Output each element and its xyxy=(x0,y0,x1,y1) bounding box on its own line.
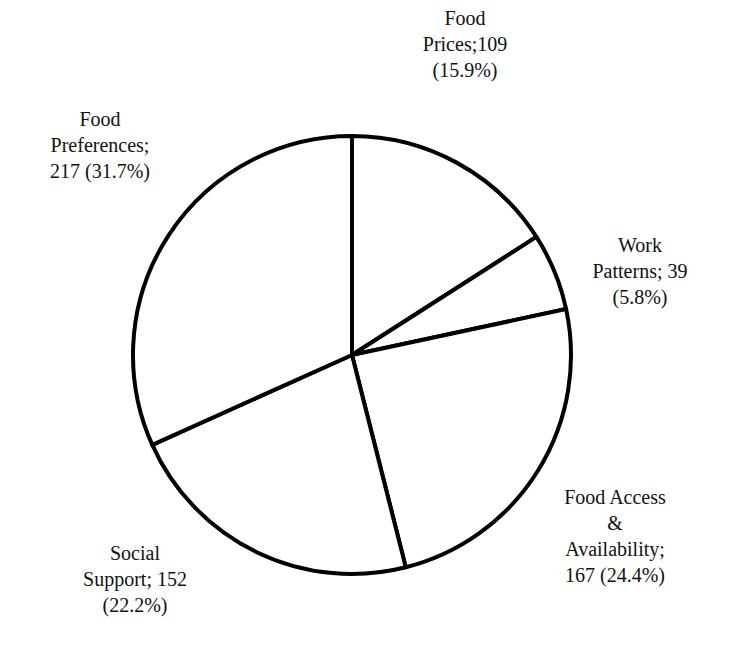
pie-slices xyxy=(133,136,571,574)
label-food-prices: Food Prices;109 (15.9%) xyxy=(400,5,530,83)
label-work-patterns: Work Patterns; 39 (5.8%) xyxy=(565,232,715,310)
label-social-support: Social Support; 152 (22.2%) xyxy=(60,540,210,618)
label-food-preferences: Food Preferences; 217 (31.7%) xyxy=(25,106,175,184)
label-food-access-availability: Food Access & Availability; 167 (24.4%) xyxy=(530,484,700,588)
